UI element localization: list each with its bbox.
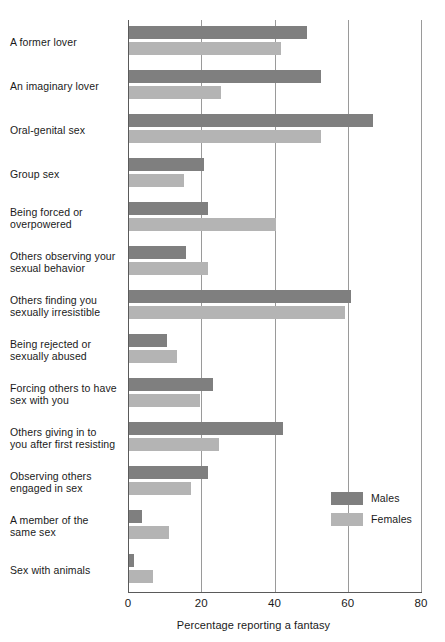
legend-label-males: Males xyxy=(371,492,400,504)
bar-males-0 xyxy=(129,26,307,39)
bar-males-12 xyxy=(129,554,134,567)
bar-males-11 xyxy=(129,510,142,523)
legend-swatch-males-icon xyxy=(331,492,363,505)
bar-females-12 xyxy=(129,570,153,583)
bar-females-2 xyxy=(129,130,321,143)
bar-males-3 xyxy=(129,158,204,171)
bar-females-0 xyxy=(129,42,281,55)
category-label-2: Oral-genital sex xyxy=(10,124,126,137)
bar-females-5 xyxy=(129,262,208,275)
category-label-1: An imaginary lover xyxy=(10,80,126,93)
bar-females-8 xyxy=(129,394,200,407)
bar-females-11 xyxy=(129,526,169,539)
x-tick-label-0: 0 xyxy=(125,597,132,609)
legend-swatch-females-icon xyxy=(331,513,363,526)
bar-males-1 xyxy=(129,70,321,83)
horizontal-bar-chart: 020406080 A former loverAn imaginary lov… xyxy=(0,0,445,642)
bar-females-6 xyxy=(129,306,345,319)
category-label-10: Observing othersengaged in sex xyxy=(10,470,126,495)
bar-males-7 xyxy=(129,334,167,347)
bar-males-5 xyxy=(129,246,186,259)
x-tick-label-40: 40 xyxy=(268,597,281,609)
category-label-0: A former lover xyxy=(10,36,126,49)
x-tick-label-80: 80 xyxy=(414,597,427,609)
chart-legend: Males Females xyxy=(331,489,437,531)
category-label-7: Being rejected orsexually abused xyxy=(10,338,126,363)
bar-males-6 xyxy=(129,290,351,303)
x-tick-label-60: 60 xyxy=(341,597,354,609)
bar-females-3 xyxy=(129,174,184,187)
category-label-4: Being forced oroverpowered xyxy=(10,206,126,231)
bar-males-4 xyxy=(129,202,208,215)
bar-females-4 xyxy=(129,218,276,231)
category-label-11: A member of thesame sex xyxy=(10,514,126,539)
x-axis-title-text: Percentage reporting a fantasy xyxy=(177,619,330,631)
x-axis-line xyxy=(128,592,422,593)
bar-males-2 xyxy=(129,114,373,127)
bar-males-8 xyxy=(129,378,213,391)
legend-label-females: Females xyxy=(371,513,412,525)
category-label-12: Sex with animals xyxy=(10,564,126,577)
category-label-5: Others observing yoursexual behavior xyxy=(10,250,126,275)
bar-males-10 xyxy=(129,466,208,479)
category-label-3: Group sex xyxy=(10,168,126,181)
bar-females-7 xyxy=(129,350,177,363)
legend-item-females: Females xyxy=(331,510,437,528)
legend-item-males: Males xyxy=(331,489,437,507)
x-tick-label-20: 20 xyxy=(195,597,208,609)
category-label-9: Others giving in toyou after first resis… xyxy=(10,426,126,451)
bar-females-10 xyxy=(129,482,191,495)
bar-females-9 xyxy=(129,438,219,451)
bar-females-1 xyxy=(129,86,221,99)
bar-males-9 xyxy=(129,422,283,435)
category-label-8: Forcing others to havesex with you xyxy=(10,382,126,407)
category-label-6: Others finding yousexually irresistible xyxy=(10,294,126,319)
x-axis-title: Percentage reporting a fantasy xyxy=(0,619,445,631)
